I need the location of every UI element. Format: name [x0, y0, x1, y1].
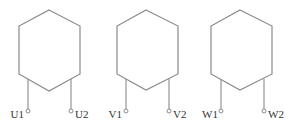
terminal-v1-icon	[124, 109, 128, 113]
label-v2: V2	[173, 108, 186, 120]
label-v1: V1	[109, 108, 122, 120]
terminal-u1-icon	[26, 109, 30, 113]
terminal-u2-icon	[69, 109, 73, 113]
winding-v: V1 V2	[109, 10, 187, 120]
label-w1: W1	[202, 108, 218, 120]
winding-u: U1 U2	[11, 10, 89, 120]
terminal-w1-icon	[219, 109, 223, 113]
hexagon-coil-w	[211, 10, 272, 90]
terminal-v2-icon	[167, 109, 171, 113]
winding-w: W1 W2	[202, 10, 284, 120]
winding-diagram: U1 U2 V1 V2 W1 W2	[0, 0, 296, 129]
hexagon-coil-u	[19, 10, 80, 91]
hexagon-coil-v	[117, 10, 178, 90]
label-w2: W2	[268, 108, 284, 120]
label-u2: U2	[75, 108, 88, 120]
label-u1: U1	[11, 108, 24, 120]
terminal-w2-icon	[262, 109, 266, 113]
